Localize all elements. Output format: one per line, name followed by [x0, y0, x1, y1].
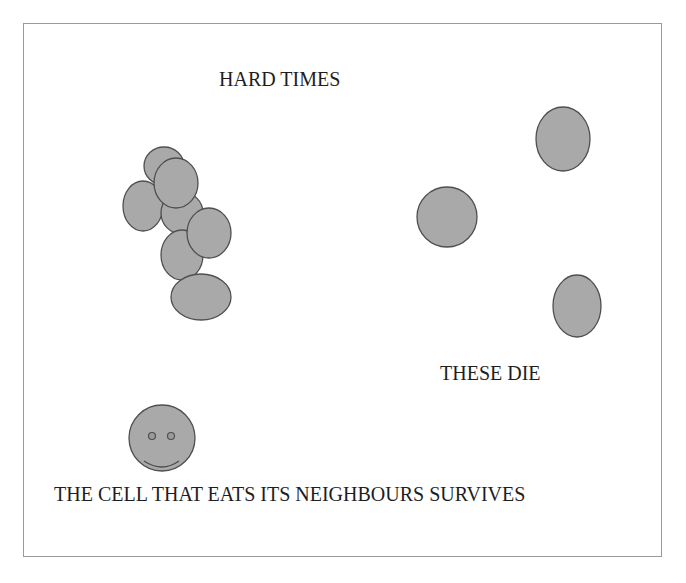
right-eye: [168, 433, 175, 440]
dying-cell: [536, 107, 590, 171]
left-eye: [149, 433, 156, 440]
survivor-caption: THE CELL THAT EATS ITS NEIGHBOURS SURVIV…: [54, 484, 525, 504]
these-die-label: THESE DIE: [440, 363, 541, 383]
dying-cell: [417, 187, 477, 247]
smiley-face-icon: [129, 405, 195, 471]
survivor-cell: [129, 405, 195, 471]
cell-cluster: [123, 147, 231, 320]
dying-cell: [553, 275, 601, 337]
cluster-cell: [171, 274, 231, 320]
cluster-cell: [154, 158, 198, 208]
hard-times-label: HARD TIMES: [219, 69, 340, 89]
dying-cells: [417, 107, 601, 337]
cluster-cell: [187, 208, 231, 258]
